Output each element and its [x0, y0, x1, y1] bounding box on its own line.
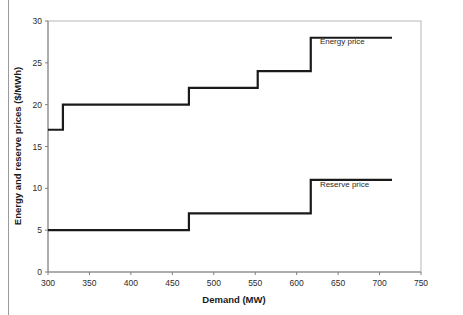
- y-axis-title: Energy and reserve prices ($/MWh): [12, 67, 23, 225]
- y-tick-label: 15: [33, 142, 43, 152]
- x-tick-label: 550: [248, 278, 262, 288]
- x-tick-label: 400: [124, 278, 138, 288]
- step-chart: 051015202530 300350400450500550600650700…: [0, 0, 463, 315]
- chart-page: 051015202530 300350400450500550600650700…: [0, 0, 463, 315]
- x-tick-label: 500: [207, 278, 221, 288]
- y-tick-label: 30: [33, 16, 43, 26]
- x-tick-label: 300: [41, 278, 55, 288]
- x-tick-label: 600: [290, 278, 304, 288]
- y-tick-label: 10: [33, 183, 43, 193]
- x-tick-label: 750: [414, 278, 428, 288]
- energy-price-annotation: Energy price: [320, 37, 365, 46]
- x-axis-ticks: 300350400450500550600650700750: [41, 272, 428, 288]
- reserve-price-annotation: Reserve price: [320, 180, 370, 189]
- x-tick-label: 650: [331, 278, 345, 288]
- x-axis-title: Demand (MW): [202, 294, 265, 305]
- y-tick-label: 0: [37, 267, 42, 277]
- chart-svg: 051015202530 300350400450500550600650700…: [0, 0, 463, 315]
- x-tick-label: 700: [372, 278, 386, 288]
- y-tick-label: 20: [33, 100, 43, 110]
- x-tick-label: 350: [82, 278, 96, 288]
- y-axis-ticks: 051015202530: [33, 16, 48, 277]
- plot-frame: [48, 21, 421, 272]
- y-tick-label: 5: [37, 225, 42, 235]
- x-tick-label: 450: [165, 278, 179, 288]
- y-tick-label: 25: [33, 58, 43, 68]
